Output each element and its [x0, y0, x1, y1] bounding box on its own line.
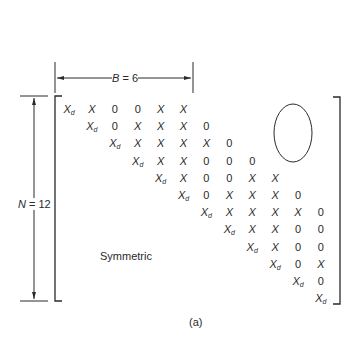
- nonzero-entry: X: [267, 189, 283, 201]
- zero-entry: 0: [221, 137, 237, 149]
- symmetric-label: Symmetric: [100, 250, 152, 262]
- nonzero-entry: X: [221, 206, 237, 218]
- zero-entry: 0: [198, 120, 214, 132]
- size-label: N = 12: [18, 198, 51, 210]
- zero-entry: 0: [313, 206, 329, 218]
- banded-matrix-diagram: XdX00XXXd0XXX0XdXXXX0XdXX000XdX00XXXd0XX…: [0, 0, 362, 339]
- nonzero-entry: X: [176, 172, 192, 184]
- zero-entry: 0: [290, 241, 306, 253]
- zero-entry: 0: [290, 223, 306, 235]
- zero-entry: 0: [244, 155, 260, 167]
- nonzero-entry: X: [153, 155, 169, 167]
- diagonal-entry: Xd: [107, 137, 123, 153]
- nonzero-entry: X: [244, 172, 260, 184]
- nonzero-entry: X: [267, 206, 283, 218]
- nonzero-entry: X: [176, 155, 192, 167]
- nonzero-entry: X: [244, 223, 260, 235]
- zero-entry: 0: [313, 223, 329, 235]
- diagonal-entry: Xd: [267, 258, 283, 274]
- nonzero-entry: X: [267, 241, 283, 253]
- diagonal-entry: Xd: [290, 275, 306, 291]
- diagonal-entry: Xd: [313, 292, 329, 308]
- nonzero-entry: X: [176, 103, 192, 115]
- nonzero-entry: X: [176, 120, 192, 132]
- zero-entry: 0: [198, 172, 214, 184]
- bandwidth-label: B = 6: [112, 72, 138, 84]
- outside-band-ellipse: [274, 104, 312, 162]
- diagonal-entry: Xd: [153, 172, 169, 188]
- zero-entry: 0: [221, 172, 237, 184]
- nonzero-entry: X: [267, 223, 283, 235]
- nonzero-entry: X: [313, 258, 329, 270]
- zero-entry: 0: [290, 258, 306, 270]
- zero-entry: 0: [198, 155, 214, 167]
- nonzero-entry: X: [198, 137, 214, 149]
- nonzero-entry: X: [221, 189, 237, 201]
- diagonal-entry: Xd: [130, 155, 146, 171]
- nonzero-entry: X: [130, 137, 146, 149]
- diagonal-entry: Xd: [198, 206, 214, 222]
- diagonal-entry: Xd: [84, 120, 100, 136]
- diagonal-entry: Xd: [244, 241, 260, 257]
- nonzero-entry: X: [84, 103, 100, 115]
- diagram-lines: [0, 0, 362, 339]
- figure-caption: (a): [189, 316, 202, 328]
- diagonal-entry: Xd: [61, 103, 77, 119]
- diagonal-entry: Xd: [176, 189, 192, 205]
- zero-entry: 0: [313, 241, 329, 253]
- zero-entry: 0: [221, 155, 237, 167]
- nonzero-entry: X: [153, 103, 169, 115]
- nonzero-entry: X: [153, 120, 169, 132]
- nonzero-entry: X: [290, 206, 306, 218]
- nonzero-entry: X: [267, 172, 283, 184]
- nonzero-entry: X: [153, 137, 169, 149]
- zero-entry: 0: [290, 189, 306, 201]
- zero-entry: 0: [107, 103, 123, 115]
- nonzero-entry: X: [176, 137, 192, 149]
- zero-entry: 0: [107, 120, 123, 132]
- nonzero-entry: X: [130, 120, 146, 132]
- zero-entry: 0: [313, 275, 329, 287]
- diagonal-entry: Xd: [221, 223, 237, 239]
- nonzero-entry: X: [244, 206, 260, 218]
- zero-entry: 0: [198, 189, 214, 201]
- nonzero-entry: X: [244, 189, 260, 201]
- zero-entry: 0: [130, 103, 146, 115]
